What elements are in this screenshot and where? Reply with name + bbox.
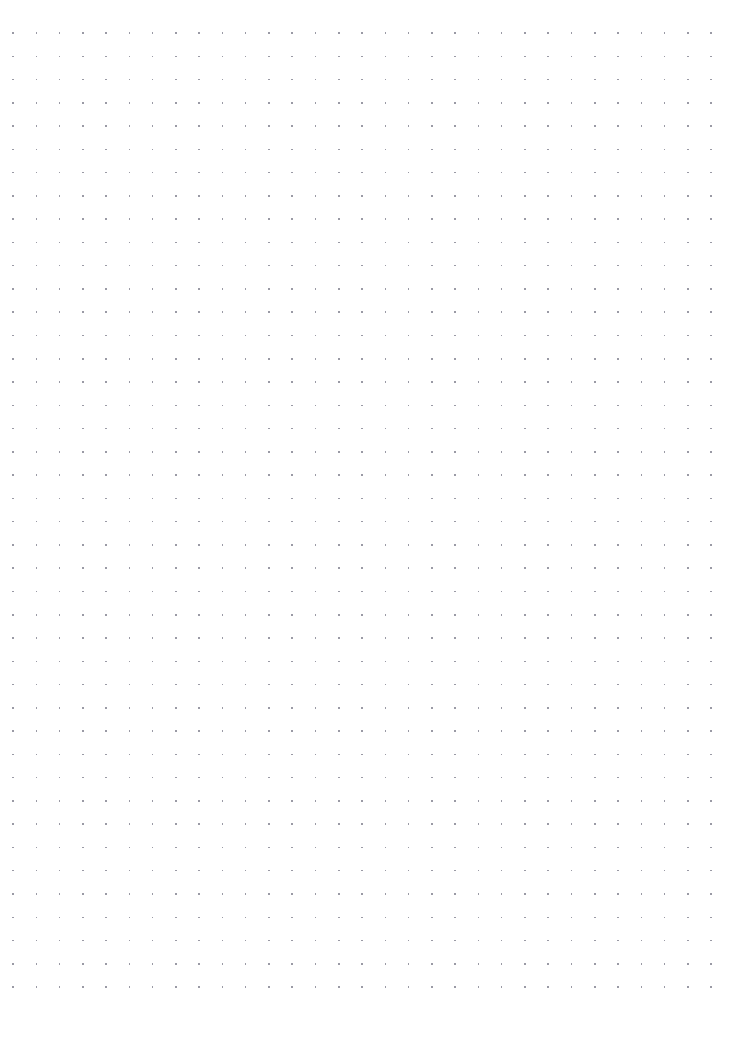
grid-dot (501, 986, 503, 988)
grid-dot (291, 474, 293, 476)
grid-dot (338, 149, 340, 151)
grid-dot (431, 265, 433, 267)
grid-dot (268, 265, 270, 267)
grid-dot (245, 288, 247, 290)
grid-dot (617, 707, 619, 709)
grid-dot (524, 335, 526, 337)
grid-dot (478, 335, 480, 337)
grid-dot (36, 102, 38, 104)
grid-dot (291, 800, 293, 802)
grid-dot (222, 56, 224, 58)
grid-dot (152, 428, 154, 430)
grid-dot (547, 242, 549, 244)
grid-dot (710, 149, 712, 151)
grid-dot (152, 823, 154, 825)
grid-dot (641, 847, 643, 849)
grid-dot (710, 986, 712, 988)
grid-dot (571, 754, 573, 756)
grid-dot (198, 498, 200, 500)
grid-dot (664, 79, 666, 81)
grid-dot (431, 940, 433, 942)
grid-dot (59, 218, 61, 220)
grid-dot (82, 102, 84, 104)
grid-dot (245, 614, 247, 616)
grid-dot (198, 451, 200, 453)
grid-dot (338, 521, 340, 523)
grid-dot (710, 870, 712, 872)
grid-dot (361, 451, 363, 453)
grid-dot (268, 172, 270, 174)
grid-dot (291, 823, 293, 825)
grid-dot (12, 730, 14, 732)
grid-dot (641, 358, 643, 360)
grid-dot (36, 614, 38, 616)
grid-dot (152, 451, 154, 453)
grid-dot (198, 405, 200, 407)
grid-dot (152, 125, 154, 127)
grid-dot (478, 963, 480, 965)
grid-dot (547, 498, 549, 500)
grid-dot (547, 125, 549, 127)
grid-dot (710, 195, 712, 197)
grid-dot (198, 917, 200, 919)
grid-dot (617, 335, 619, 337)
grid-dot (82, 79, 84, 81)
grid-dot (664, 684, 666, 686)
grid-dot (385, 986, 387, 988)
grid-dot (431, 498, 433, 500)
grid-dot (687, 661, 689, 663)
grid-dot (129, 567, 131, 569)
grid-dot (571, 963, 573, 965)
grid-dot (245, 498, 247, 500)
grid-dot (12, 614, 14, 616)
grid-dot (175, 893, 177, 895)
grid-dot (478, 893, 480, 895)
grid-dot (501, 32, 503, 34)
grid-dot (268, 242, 270, 244)
grid-dot (338, 102, 340, 104)
grid-dot (129, 823, 131, 825)
grid-dot (129, 405, 131, 407)
grid-dot (36, 917, 38, 919)
grid-dot (547, 707, 549, 709)
grid-dot (245, 102, 247, 104)
grid-dot (478, 149, 480, 151)
grid-dot (36, 637, 38, 639)
grid-dot (385, 614, 387, 616)
grid-dot (431, 218, 433, 220)
grid-dot (385, 172, 387, 174)
grid-dot (664, 754, 666, 756)
grid-dot (36, 521, 38, 523)
grid-dot (547, 288, 549, 290)
grid-dot (82, 521, 84, 523)
grid-dot (129, 800, 131, 802)
grid-dot (315, 730, 317, 732)
grid-dot (431, 521, 433, 523)
grid-dot (431, 893, 433, 895)
grid-dot (431, 125, 433, 127)
grid-dot (408, 172, 410, 174)
grid-dot (454, 125, 456, 127)
grid-dot (59, 381, 61, 383)
grid-dot (59, 474, 61, 476)
grid-dot (361, 498, 363, 500)
grid-dot (524, 940, 526, 942)
grid-dot (338, 474, 340, 476)
grid-dot (524, 800, 526, 802)
grid-dot (59, 917, 61, 919)
grid-dot (594, 986, 596, 988)
grid-dot (152, 544, 154, 546)
grid-dot (431, 32, 433, 34)
grid-dot (36, 730, 38, 732)
grid-dot (198, 521, 200, 523)
grid-dot (664, 56, 666, 58)
grid-dot (478, 195, 480, 197)
grid-dot (291, 405, 293, 407)
grid-dot (268, 195, 270, 197)
grid-dot (12, 288, 14, 290)
grid-dot (710, 311, 712, 313)
grid-dot (82, 265, 84, 267)
grid-dot (59, 544, 61, 546)
grid-dot (82, 800, 84, 802)
grid-dot (664, 847, 666, 849)
